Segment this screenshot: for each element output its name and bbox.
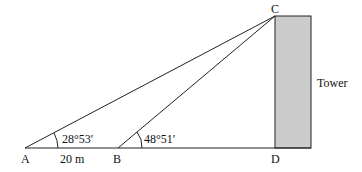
tower-label: Tower [317,77,347,89]
line-AC [25,16,275,148]
point-label-d: D [271,153,280,165]
point-label-b: B [113,153,121,165]
tower-diagram [0,0,362,172]
distance-label: 20 m [60,153,84,165]
point-label-a: A [21,153,30,165]
line-BC [118,16,275,148]
angle-arc-A [54,133,58,148]
point-label-c: C [271,3,279,15]
angle-label-b: 48°51′ [144,133,175,145]
angle-arc-B [137,132,142,148]
angle-label-a: 28°53′ [62,133,93,145]
tower [275,16,311,148]
